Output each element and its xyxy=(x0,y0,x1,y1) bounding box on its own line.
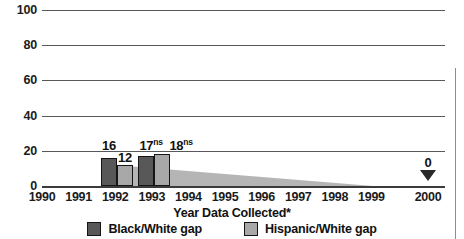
x-axis-baseline xyxy=(42,186,445,188)
legend-swatch-hispanic-white xyxy=(244,222,258,236)
gridline-60 xyxy=(42,80,445,81)
endpoint-value-label: 0 xyxy=(420,157,436,169)
adjacent-panel-edge xyxy=(455,68,464,239)
chart-legend: Black/White gap Hispanic/White gap xyxy=(0,222,464,236)
x-tick-1999: 1999 xyxy=(346,190,396,204)
chart-container: 100 80 60 40 20 0 16 12 17ns 18ns 0 xyxy=(0,0,464,239)
bar-hispanic-white-1992 xyxy=(117,165,133,186)
data-label-hispanic-white-1992: 12 xyxy=(118,150,132,165)
superscript-ns: ns xyxy=(153,137,162,147)
bar-hispanic-white-1993 xyxy=(154,154,170,186)
superscript-ns: ns xyxy=(183,137,192,147)
data-label-black-white-1993: 17ns xyxy=(139,138,162,153)
x-tick-2000: 2000 xyxy=(403,190,453,204)
gridline-40 xyxy=(42,116,445,117)
legend-item-hispanic-white: Hispanic/White gap xyxy=(244,222,377,236)
down-triangle-icon xyxy=(420,170,436,181)
legend-swatch-black-white xyxy=(87,222,101,236)
gridline-80 xyxy=(42,45,445,46)
legend-label-hispanic-white: Hispanic/White gap xyxy=(265,222,377,236)
legend-label-black-white: Black/White gap xyxy=(108,222,202,236)
y-tick-20: 20 xyxy=(0,144,37,158)
y-tick-40: 40 xyxy=(0,109,37,123)
y-tick-80: 80 xyxy=(0,38,37,52)
plot-area xyxy=(42,10,445,186)
gridline-100 xyxy=(42,10,445,11)
data-label-hispanic-white-1993: 18ns xyxy=(169,138,192,153)
y-tick-60: 60 xyxy=(0,73,37,87)
data-label-black-white-1992: 16 xyxy=(102,138,116,153)
bar-black-white-1992 xyxy=(101,158,117,186)
legend-item-black-white: Black/White gap xyxy=(87,222,202,236)
endpoint-marker-2000: 0 xyxy=(420,157,436,181)
x-axis-title: Year Data Collected* xyxy=(0,206,464,220)
y-tick-100: 100 xyxy=(0,3,37,17)
bar-black-white-1993 xyxy=(138,156,154,186)
